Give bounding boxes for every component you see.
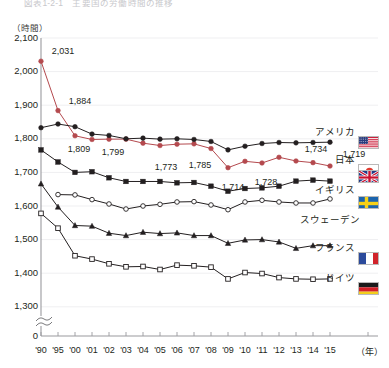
flag-fr-icon bbox=[358, 252, 379, 265]
series-marker-スウェーデン bbox=[107, 202, 112, 207]
series-marker-日本 bbox=[260, 161, 265, 166]
series-line-フランス bbox=[41, 184, 330, 249]
series-marker-イギリス bbox=[175, 181, 180, 186]
series-marker-イギリス bbox=[107, 175, 112, 180]
legend-label-jp: 日本 bbox=[300, 152, 355, 166]
series-marker-イギリス bbox=[277, 184, 282, 189]
series-marker-スウェーデン bbox=[209, 203, 214, 208]
y-axis-tick-label: 1,400 bbox=[0, 267, 38, 278]
series-marker-イギリス bbox=[158, 179, 163, 184]
x-axis-tick-label: '15 bbox=[324, 345, 336, 355]
series-marker-ドイツ bbox=[277, 275, 282, 280]
series-marker-イギリス bbox=[39, 148, 44, 153]
y-axis-tick-label: 1,700 bbox=[0, 166, 38, 177]
series-marker-ドイツ bbox=[158, 267, 163, 272]
x-axis-tick-label: '02 bbox=[103, 345, 115, 355]
series-marker-日本 bbox=[209, 146, 214, 151]
series-marker-ドイツ bbox=[39, 211, 44, 216]
series-marker-アメリカ bbox=[192, 137, 197, 142]
data-point-label: 2,031 bbox=[52, 46, 75, 56]
series-marker-アメリカ bbox=[243, 144, 248, 149]
series-marker-スウェーデン bbox=[311, 201, 316, 206]
series-marker-イギリス bbox=[90, 169, 95, 174]
series-marker-スウェーデン bbox=[243, 200, 248, 205]
series-marker-日本 bbox=[175, 142, 180, 147]
series-marker-スウェーデン bbox=[328, 197, 333, 202]
y-axis-tick-label: 1,900 bbox=[0, 99, 38, 110]
x-axis-tick-label: '14 bbox=[307, 345, 319, 355]
series-marker-ドイツ bbox=[124, 265, 129, 270]
flag-se-icon bbox=[358, 196, 379, 209]
legend-label-uk: イギリス bbox=[300, 182, 355, 196]
series-marker-ドイツ bbox=[56, 226, 61, 231]
series-marker-スウェーデン bbox=[277, 200, 282, 205]
series-marker-スウェーデン bbox=[141, 204, 146, 209]
series-marker-アメリカ bbox=[107, 133, 112, 138]
series-marker-日本 bbox=[56, 108, 61, 113]
series-marker-アメリカ bbox=[141, 136, 146, 141]
series-marker-日本 bbox=[73, 133, 78, 138]
data-point-label: 1,884 bbox=[69, 96, 92, 106]
x-axis-tick-label: '06 bbox=[171, 345, 183, 355]
x-axis-tick-label: '11 bbox=[256, 345, 267, 355]
x-axis-tick-label: '03 bbox=[120, 345, 132, 355]
series-marker-アメリカ bbox=[124, 137, 129, 142]
series-marker-日本 bbox=[226, 165, 231, 170]
series-marker-ドイツ bbox=[73, 253, 78, 258]
data-point-label: 1,799 bbox=[102, 147, 125, 157]
series-marker-アメリカ bbox=[90, 132, 95, 137]
chart-figure: 図表1-2-1 主要国の労働時間の推移 （時間） 2,1002,0001,900… bbox=[0, 0, 389, 368]
x-axis-tick-label: '12 bbox=[273, 345, 285, 355]
axis-break-icon bbox=[36, 317, 52, 321]
y-axis-tick-label: 1,600 bbox=[0, 200, 38, 211]
x-axis-tick-label: '90 bbox=[35, 345, 47, 355]
y-axis-tick-label: 1,300 bbox=[0, 300, 38, 311]
series-marker-日本 bbox=[192, 142, 197, 147]
series-marker-日本 bbox=[277, 155, 282, 160]
x-axis-tick-label: '00 bbox=[69, 345, 81, 355]
flag-us-icon bbox=[358, 136, 379, 149]
data-point-label: 1,809 bbox=[68, 144, 91, 154]
series-marker-スウェーデン bbox=[73, 193, 78, 198]
legend-label-se: スウェーデン bbox=[300, 212, 355, 226]
x-axis-tick-label: '10 bbox=[239, 345, 251, 355]
series-marker-日本 bbox=[90, 137, 95, 142]
series-marker-日本 bbox=[141, 141, 146, 146]
x-axis-tick-label: '09 bbox=[222, 345, 234, 355]
series-marker-ドイツ bbox=[90, 257, 95, 262]
series-marker-スウェーデン bbox=[294, 201, 299, 206]
series-marker-ドイツ bbox=[141, 264, 146, 269]
series-marker-イギリス bbox=[209, 184, 214, 189]
x-axis-tick-label: '01 bbox=[86, 345, 98, 355]
data-point-label: 1,714 bbox=[222, 182, 245, 192]
y-axis-tick-label: 2,000 bbox=[0, 65, 38, 76]
series-marker-アメリカ bbox=[73, 124, 78, 129]
series-marker-イギリス bbox=[294, 179, 299, 184]
data-point-label: 1,728 bbox=[255, 177, 278, 187]
series-marker-ドイツ bbox=[175, 263, 180, 268]
series-marker-日本 bbox=[243, 159, 248, 164]
x-axis-tick-label: '05 bbox=[154, 345, 166, 355]
y-axis-tick-label: 1,800 bbox=[0, 132, 38, 143]
series-marker-日本 bbox=[158, 143, 163, 148]
series-marker-アメリカ bbox=[277, 140, 282, 145]
series-marker-スウェーデン bbox=[226, 207, 231, 212]
legend-label-us: アメリカ bbox=[300, 124, 355, 138]
series-marker-ドイツ bbox=[226, 277, 231, 282]
flag-de-icon bbox=[358, 282, 379, 295]
data-point-label: 1,785 bbox=[189, 160, 212, 170]
series-marker-フランス bbox=[38, 181, 43, 186]
data-point-label: 1,773 bbox=[155, 162, 178, 172]
series-marker-ドイツ bbox=[209, 265, 214, 270]
series-marker-アメリカ bbox=[294, 141, 299, 146]
y-axis-tick-label: 1,500 bbox=[0, 233, 38, 244]
series-marker-アメリカ bbox=[226, 148, 231, 153]
series-marker-スウェーデン bbox=[56, 192, 61, 197]
series-line-イギリス bbox=[41, 150, 330, 191]
series-marker-ドイツ bbox=[107, 261, 112, 266]
series-marker-イギリス bbox=[56, 160, 61, 165]
series-marker-アメリカ bbox=[39, 125, 44, 130]
x-axis-tick-label: '04 bbox=[137, 345, 149, 355]
axis-break-icon bbox=[36, 322, 52, 326]
series-marker-イギリス bbox=[73, 170, 78, 175]
